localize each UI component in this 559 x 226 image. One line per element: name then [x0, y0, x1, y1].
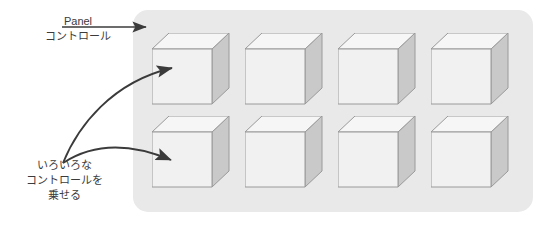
diagram-root: Panel コントロール いろいろな コントロールを 乗せる — [0, 0, 559, 226]
cube-shape — [245, 116, 325, 191]
panel-annotation-label: Panel コントロール — [34, 14, 122, 44]
cube-face-front — [152, 49, 212, 104]
cube-face-front — [152, 132, 212, 187]
cube-1-1[interactable] — [152, 33, 230, 106]
cube-shape — [431, 116, 511, 191]
cube-1-4[interactable] — [431, 33, 509, 106]
cube-shape — [245, 33, 325, 108]
cube-2-3[interactable] — [338, 116, 416, 189]
panel-label-line-2: コントロール — [34, 29, 122, 44]
controls-label-line-2: コントロールを — [8, 173, 120, 188]
cube-face-front — [431, 132, 491, 187]
cube-2-4[interactable] — [431, 116, 509, 189]
cube-shape — [338, 33, 418, 108]
cube-2-2[interactable] — [245, 116, 323, 189]
cube-1-3[interactable] — [338, 33, 416, 106]
cube-face-front — [338, 49, 398, 104]
cube-shape — [338, 116, 418, 191]
cube-1-2[interactable] — [245, 33, 323, 106]
controls-label-line-1: いろいろな — [8, 158, 120, 173]
cube-face-front — [431, 49, 491, 104]
cube-shape — [152, 33, 232, 108]
cube-face-front — [245, 49, 305, 104]
controls-annotation-label: いろいろな コントロールを 乗せる — [8, 158, 120, 203]
cube-face-front — [338, 132, 398, 187]
panel-label-line-1: Panel — [34, 14, 122, 29]
controls-label-line-3: 乗せる — [8, 188, 120, 203]
cube-shape — [431, 33, 511, 108]
cube-shape — [152, 116, 232, 191]
cube-2-1[interactable] — [152, 116, 230, 189]
cube-face-front — [245, 132, 305, 187]
